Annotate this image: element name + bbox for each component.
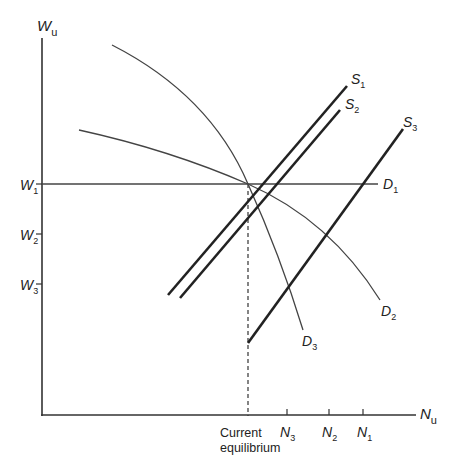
supply-curve-s1	[168, 86, 347, 295]
labour-market-diagram: Wu Nu W1 W2 W3 N3 N2 N1 Current equilibr…	[0, 0, 452, 470]
y-tick-label-w3: W3	[20, 277, 38, 296]
y-tick-label-w1: W1	[20, 177, 38, 196]
demand-label-d1: D1	[383, 176, 398, 195]
demand-label-d2: D2	[381, 303, 396, 322]
y-tick-label-w2: W2	[20, 227, 38, 246]
equilibrium-label-line2: equilibrium	[220, 441, 280, 455]
demand-label-d3: D3	[302, 333, 317, 352]
equilibrium-label-line1: Current	[220, 426, 262, 440]
x-tick-label-n3: N3	[280, 424, 295, 443]
supply-curve-s2	[180, 110, 340, 298]
x-tick-label-n2: N2	[322, 424, 337, 443]
demand-curve-d2	[79, 130, 380, 300]
supply-label-s1: S1	[351, 71, 365, 90]
supply-label-s3: S3	[403, 114, 417, 133]
x-axis-label: Nu	[420, 405, 437, 426]
supply-curve-s3	[248, 129, 403, 343]
x-tick-label-n1: N1	[357, 424, 372, 443]
y-axis-label: Wu	[37, 17, 57, 38]
supply-label-s2: S2	[345, 96, 359, 115]
